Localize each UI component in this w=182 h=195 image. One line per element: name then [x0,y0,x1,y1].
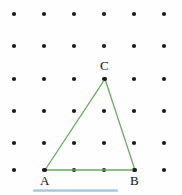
grid-dot [162,44,166,48]
grid-dot [72,44,76,48]
grid-dot [72,109,76,113]
grid-dot [72,77,76,81]
grid-dot [12,168,16,172]
dot-grid-canvas [0,0,182,195]
selection-highlight-bar [33,189,118,192]
grid-dot [42,77,46,81]
grid-dot [132,44,136,48]
grid-dot [132,141,136,145]
grid-dot [12,77,16,81]
grid-dot [162,77,166,81]
grid-dot [102,12,106,16]
grid-dot [42,109,46,113]
grid-dot [12,12,16,16]
grid-dot [162,141,166,145]
vertex-label-a: A [40,174,49,187]
grid-dot [102,44,106,48]
grid-dot [162,109,166,113]
grid-dot [162,168,166,172]
triangle-abc [45,79,135,170]
grid-dot [12,44,16,48]
vertex-label-c: C [100,59,109,72]
vertex-label-b: B [130,174,139,187]
grid-dot [12,109,16,113]
grid-dot [42,141,46,145]
geometry-figure: A B C [0,0,182,195]
grid-dot [42,12,46,16]
grid-dot [162,12,166,16]
grid-dot [132,77,136,81]
grid-dot [12,141,16,145]
vertex-dot-c [103,77,107,81]
vertex-dot-a [43,168,47,172]
dot-grid [12,12,166,172]
triangle-vertex-dots [43,77,137,172]
grid-dot [132,109,136,113]
grid-dot [72,141,76,145]
grid-dot [42,44,46,48]
vertex-dot-b [133,168,137,172]
grid-dot [102,141,106,145]
grid-dot [132,12,136,16]
grid-dot [102,109,106,113]
grid-dot [72,12,76,16]
